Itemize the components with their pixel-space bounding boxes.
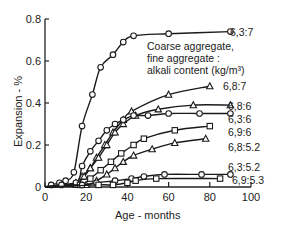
x-tick-label: 0 xyxy=(42,191,48,203)
square-marker xyxy=(131,142,136,147)
x-tick-label: 80 xyxy=(204,191,216,203)
x-tick-label: 20 xyxy=(80,191,92,203)
circle-marker xyxy=(71,170,77,176)
square-marker xyxy=(119,151,124,156)
y-axis-title: Expansion - % xyxy=(12,76,24,147)
circle-marker xyxy=(79,123,85,129)
x-tick-label: 100 xyxy=(242,191,260,203)
expansion-chart: 00.20.40.60.8020406080100 6,3:76,8:76,8:… xyxy=(0,0,281,229)
circle-marker xyxy=(110,52,116,58)
series-label: 6,3:5.2 xyxy=(228,161,260,173)
x-tick-label: 60 xyxy=(162,191,174,203)
y-tick-label: 0.8 xyxy=(26,13,41,25)
circle-marker xyxy=(90,92,96,98)
circle-marker xyxy=(145,113,151,119)
square-marker xyxy=(96,182,101,187)
circle-marker xyxy=(197,111,203,117)
circle-marker xyxy=(79,163,85,169)
circle-marker xyxy=(120,39,126,45)
y-tick-label: 0.2 xyxy=(26,139,41,151)
square-marker xyxy=(172,128,177,133)
circle-marker xyxy=(98,65,104,71)
y-tick-label: 0 xyxy=(35,181,41,193)
series-label: 6,9:6 xyxy=(228,126,252,138)
circle-marker xyxy=(162,172,168,178)
square-marker xyxy=(217,176,222,181)
triangle-marker xyxy=(104,171,110,177)
x-tick-label: 40 xyxy=(121,191,133,203)
square-marker xyxy=(125,180,130,185)
series-label: 6,8:5.2 xyxy=(228,141,260,153)
square-marker xyxy=(133,178,138,183)
circle-marker xyxy=(199,172,205,178)
circle-marker xyxy=(96,138,102,144)
square-marker xyxy=(141,136,146,141)
circle-marker xyxy=(104,128,110,134)
series-6-8-7 xyxy=(45,83,213,188)
circle-marker xyxy=(166,31,172,37)
series-label: 6,3:6 xyxy=(228,113,252,125)
circle-marker xyxy=(141,174,147,180)
circle-marker xyxy=(120,117,126,123)
square-marker xyxy=(154,176,159,181)
square-marker xyxy=(207,123,212,128)
circle-marker xyxy=(166,111,172,117)
series-label: 6,8:6 xyxy=(228,100,252,112)
y-tick-label: 0.4 xyxy=(26,97,41,109)
series-line xyxy=(45,86,210,187)
circle-marker xyxy=(131,113,137,119)
triangle-marker xyxy=(120,158,126,164)
circle-marker xyxy=(131,33,137,39)
square-marker xyxy=(88,176,93,181)
y-tick-label: 0.6 xyxy=(26,55,41,67)
square-marker xyxy=(110,182,115,187)
series-label: 6,9:5.3 xyxy=(232,174,264,186)
legend-title: Coarse aggregate,fine aggregate :alkali … xyxy=(147,40,244,76)
circle-marker xyxy=(88,149,94,155)
x-axis-title: Age - months xyxy=(115,209,181,221)
series-label: 6,8:7 xyxy=(223,80,247,92)
circle-marker xyxy=(112,121,118,127)
series-label: 6,3:7 xyxy=(230,26,254,38)
square-marker xyxy=(98,168,103,173)
triangle-marker xyxy=(207,83,213,89)
square-marker xyxy=(108,159,113,164)
